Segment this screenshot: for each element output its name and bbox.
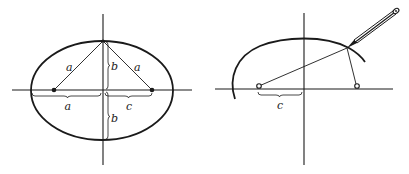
label-c: c: [126, 100, 132, 113]
left-focus-line: [54, 41, 103, 90]
left-pin: [257, 84, 262, 89]
right-pin: [355, 84, 360, 89]
figure-ellipse-construction: c: [215, 7, 400, 165]
focal-distance-brace-right: [258, 92, 302, 97]
label-left-a: a: [66, 61, 73, 74]
pencil-icon: [347, 7, 400, 48]
string-left: [259, 48, 347, 86]
label-bottom-a: a: [65, 100, 72, 113]
label-right-a: a: [134, 61, 141, 74]
label-upper-b: b: [111, 60, 118, 73]
upper-b-brace: [106, 42, 110, 89]
lower-b-brace: [106, 92, 110, 139]
label-c-right: c: [277, 99, 283, 112]
semi-major-brace: [32, 93, 101, 98]
figure-ellipse-geometry: a a b b a c: [12, 14, 192, 165]
label-lower-b: b: [111, 112, 118, 125]
right-focus-point: [150, 88, 155, 93]
left-focus-point: [52, 88, 57, 93]
top-vertex-point: [101, 39, 104, 42]
string-right: [347, 48, 356, 84]
focal-distance-brace: [105, 93, 152, 98]
ellipse-diagrams: a a b b a c c: [0, 0, 409, 174]
